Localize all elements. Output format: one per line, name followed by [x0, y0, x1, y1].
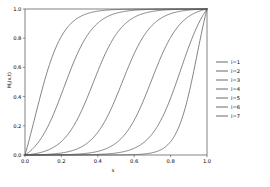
curve-i7	[25, 9, 207, 155]
y-tick-label: 0.2	[13, 123, 21, 129]
y-tick-label: 1.0	[13, 6, 21, 12]
chart-figure: 0.00.20.40.60.81.0 0.00.20.40.60.81.0 x …	[0, 0, 270, 187]
curves-group	[25, 9, 207, 155]
x-tick-label: 0.6	[130, 158, 138, 164]
y-axis-label: Mi(x,t)	[6, 72, 13, 88]
legend-label-i5: i=5	[231, 95, 240, 101]
x-tick-label: 0.8	[166, 158, 174, 164]
legend: i=1i=2i=3i=4i=5i=6i=7	[216, 59, 241, 119]
legend-label-i3: i=3	[231, 77, 240, 83]
curve-i3	[25, 9, 207, 155]
curve-i6	[25, 9, 207, 155]
legend-label-i1: i=1	[231, 59, 240, 65]
axes-box	[25, 9, 207, 155]
curve-i4	[25, 9, 207, 155]
curve-i5	[25, 9, 207, 155]
curve-i2	[25, 9, 207, 155]
legend-label-i2: i=2	[231, 68, 240, 74]
curve-i1	[25, 9, 207, 155]
plot-frame	[25, 9, 207, 155]
x-tick-label: 0.2	[57, 158, 65, 164]
x-axis-ticks: 0.00.20.40.60.81.0	[21, 155, 211, 164]
x-axis-label: x	[111, 167, 114, 173]
chart-svg: 0.00.20.40.60.81.0 0.00.20.40.60.81.0 x …	[0, 0, 270, 187]
x-tick-label: 0.4	[94, 158, 103, 164]
legend-label-i4: i=4	[231, 86, 241, 92]
y-tick-label: 0.0	[13, 152, 21, 158]
x-tick-label: 1.0	[203, 158, 211, 164]
legend-label-i7: i=7	[231, 113, 240, 119]
y-tick-label: 0.6	[13, 64, 21, 70]
y-axis-ticks: 0.00.20.40.60.81.0	[13, 6, 25, 158]
y-tick-label: 0.8	[13, 35, 21, 41]
y-tick-label: 0.4	[13, 94, 22, 100]
x-tick-label: 0.0	[21, 158, 29, 164]
legend-label-i6: i=6	[231, 104, 240, 110]
